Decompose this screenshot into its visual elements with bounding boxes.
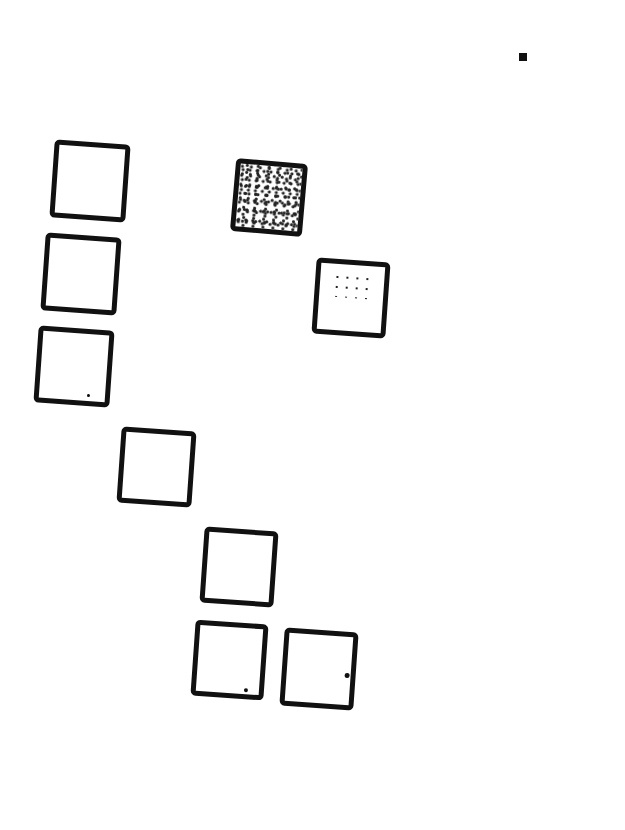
checkbox-1[interactable] [49,139,130,222]
stray-mark [244,688,248,692]
registration-marker [519,53,527,61]
checkbox-3[interactable] [33,325,114,407]
checkbox-9-marked[interactable] [311,258,390,339]
checkbox-5[interactable] [199,527,278,608]
checkbox-2[interactable] [40,232,121,315]
checkbox-6[interactable] [190,620,268,701]
checkbox-4[interactable] [116,426,196,507]
stray-mark [344,673,349,678]
stray-mark [87,394,90,397]
checkbox-7[interactable] [279,628,358,711]
checkbox-8-filled[interactable] [230,158,308,237]
